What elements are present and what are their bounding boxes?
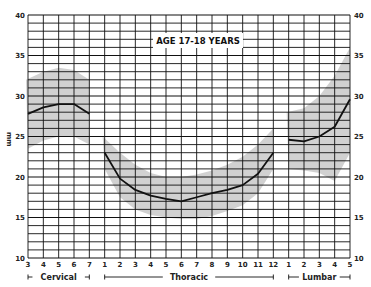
x-tick-label: 5 (56, 261, 61, 269)
x-tick-label: 2 (118, 261, 123, 269)
y-axis-left-ticks: 10152025303540 (15, 12, 25, 263)
y-tick-label: 30 (354, 93, 364, 101)
y-tick-label: 40 (354, 12, 364, 20)
x-tick-label: 11 (253, 261, 263, 269)
x-tick-label: 4 (332, 261, 337, 269)
x-tick-label: 8 (210, 261, 215, 269)
x-tick-label: 3 (317, 261, 322, 269)
x-axis-groups: CervicalThoracicLumbar (28, 273, 350, 282)
y-tick-label: 40 (15, 12, 25, 20)
x-tick-label: 12 (268, 261, 278, 269)
x-tick-label: 3 (26, 261, 31, 269)
x-tick-label: 4 (148, 261, 153, 269)
x-group-label: Lumbar (302, 273, 336, 282)
vertebral-dimension-chart: 10152025303540 10152025303540 3456712345… (0, 0, 371, 287)
y-tick-label: 25 (354, 133, 364, 141)
chart-title: AGE 17-18 YEARS (156, 36, 240, 46)
confidence-band (103, 128, 274, 219)
x-tick-label: 4 (41, 261, 46, 269)
x-axis-ticks: 3456712345678910111212345 (26, 261, 353, 269)
x-tick-label: 10 (238, 261, 248, 269)
y-tick-label: 20 (354, 174, 364, 182)
x-tick-label: 1 (102, 261, 107, 269)
y-tick-label: 15 (354, 214, 364, 222)
x-group-label: Thoracic (170, 273, 208, 282)
x-tick-label: 9 (225, 261, 230, 269)
grid-lines (28, 15, 350, 258)
x-tick-label: 6 (72, 261, 77, 269)
x-tick-label: 7 (194, 261, 199, 269)
y-tick-label: 20 (15, 174, 25, 182)
x-tick-label: 3 (133, 261, 138, 269)
y-tick-label: 35 (354, 52, 364, 60)
x-tick-label: 5 (164, 261, 169, 269)
x-tick-label: 2 (302, 261, 307, 269)
y-tick-label: 35 (15, 52, 25, 60)
x-group-label: Cervical (41, 273, 77, 282)
x-tick-label: 6 (179, 261, 184, 269)
y-tick-label: 25 (15, 133, 25, 141)
y-tick-label: 15 (15, 214, 25, 222)
y-axis-right-ticks: 10152025303540 (354, 12, 364, 263)
x-tick-label: 5 (348, 261, 353, 269)
y-tick-label: 10 (15, 255, 25, 263)
x-tick-label: 1 (286, 261, 291, 269)
chart-title-box: AGE 17-18 YEARS (153, 33, 243, 48)
x-tick-label: 7 (87, 261, 92, 269)
y-tick-label: 10 (354, 255, 364, 263)
y-axis-label: mm (5, 132, 13, 147)
y-tick-label: 30 (15, 93, 25, 101)
